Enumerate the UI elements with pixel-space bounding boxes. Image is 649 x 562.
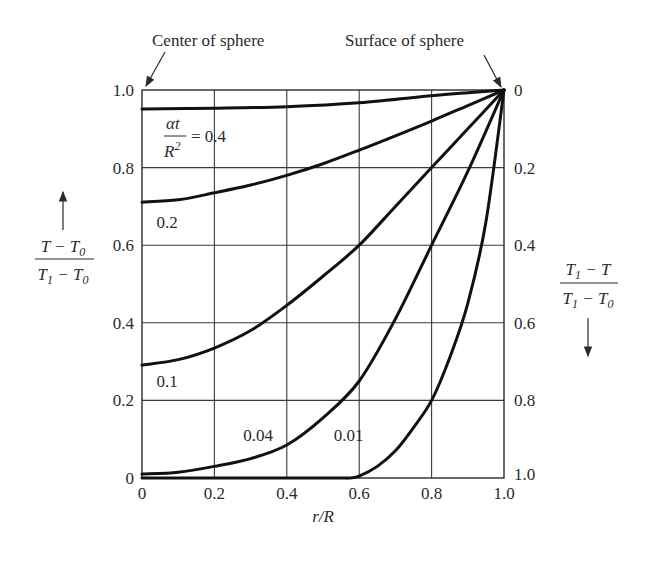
svg-text:T1 − T: T1 − T <box>566 260 612 282</box>
x-tick-label: 0.8 <box>421 484 442 503</box>
right-y-axis-ticks: 1.00.80.60.40.20 <box>514 81 536 484</box>
temperature-profile-chart: 00.20.40.60.81.0 00.20.40.60.81.0 1.00.8… <box>0 0 649 562</box>
right-y-tick-label: 1.0 <box>514 465 535 484</box>
surface-of-sphere-annotation: Surface of sphere <box>345 31 464 50</box>
left-y-axis-label: T − T0 T1 − T0 <box>35 192 94 287</box>
x-axis-ticks: 00.20.40.60.81.0 <box>138 484 515 503</box>
svg-text:T1 − T0: T1 − T0 <box>38 265 89 287</box>
svg-text:R2: R2 <box>163 139 180 161</box>
parameter-label: αt R2 = 0.4 <box>163 114 227 161</box>
curve-label: 0.04 <box>243 426 273 445</box>
right-y-tick-label: 0.2 <box>514 159 535 178</box>
x-tick-label: 0 <box>138 484 147 503</box>
curve-label: 0.01 <box>334 426 364 445</box>
curve-0-4 <box>142 90 504 109</box>
right-y-tick-label: 0.6 <box>514 314 535 333</box>
svg-text:T − T0: T − T0 <box>41 237 86 259</box>
right-y-tick-label: 0 <box>514 81 523 100</box>
center-arrow-icon <box>146 52 165 86</box>
curves <box>142 90 504 478</box>
left-y-tick-label: 1.0 <box>113 81 134 100</box>
left-y-tick-label: 0.6 <box>113 236 134 255</box>
x-tick-label: 0.6 <box>349 484 370 503</box>
left-y-tick-label: 0 <box>126 469 135 488</box>
left-y-axis-ticks: 00.20.40.60.81.0 <box>113 81 135 488</box>
left-y-tick-label: 0.4 <box>113 314 135 333</box>
curve-label: 0.1 <box>156 372 177 391</box>
x-tick-label: 0.4 <box>276 484 298 503</box>
left-y-tick-label: 0.8 <box>113 159 134 178</box>
surface-arrow-icon <box>484 55 501 87</box>
x-tick-label: 1.0 <box>493 484 514 503</box>
right-y-axis-label: T1 − T T1 − T0 <box>560 260 618 356</box>
svg-text:T1 − T0: T1 − T0 <box>563 289 614 311</box>
svg-text:αt: αt <box>166 114 181 133</box>
right-y-tick-label: 0.4 <box>514 236 536 255</box>
curve-label: 0.2 <box>156 213 177 232</box>
right-y-tick-label: 0.8 <box>514 391 535 410</box>
x-tick-label: 0.2 <box>204 484 225 503</box>
x-axis-label: r/R <box>312 507 334 526</box>
center-of-sphere-annotation: Center of sphere <box>152 31 264 50</box>
svg-text:= 0.4: = 0.4 <box>191 127 227 146</box>
left-y-tick-label: 0.2 <box>113 391 134 410</box>
